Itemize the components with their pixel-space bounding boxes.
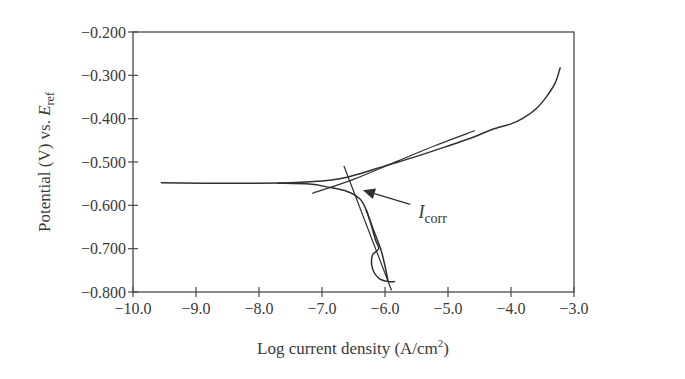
plot-border — [133, 32, 574, 292]
polarization-chart: −0.200−0.300−0.400−0.500−0.600−0.700−0.8… — [0, 0, 685, 379]
y-axis-label: Potential (V) vs. Eref — [35, 92, 57, 232]
x-axis-label: Log current density (A/cm2) — [257, 337, 449, 358]
anodic-tafel-fit-line — [313, 131, 475, 193]
y-axis-ticks: −0.200−0.300−0.400−0.500−0.600−0.700−0.8… — [81, 24, 138, 301]
y-tick-label: −0.800 — [81, 284, 126, 301]
x-tick-label: −7.0 — [307, 300, 336, 317]
plot-frame — [133, 32, 574, 292]
icorr-label: Icorr — [417, 202, 447, 226]
y-tick-label: −0.200 — [81, 24, 126, 41]
x-tick-label: −9.0 — [181, 300, 210, 317]
anodic-branch-line — [161, 68, 560, 183]
cathodic-tafel-fit-line — [344, 166, 391, 290]
y-tick-label: −0.300 — [81, 67, 126, 84]
y-tick-label: −0.600 — [81, 197, 126, 214]
y-tick-label: −0.700 — [81, 240, 126, 257]
x-tick-label: −5.0 — [433, 300, 462, 317]
cathodic-branch-line — [278, 183, 395, 282]
x-tick-label: −6.0 — [370, 300, 399, 317]
arrow-head-icon — [363, 188, 376, 199]
x-tick-label: −10.0 — [114, 300, 151, 317]
y-tick-label: −0.500 — [81, 154, 126, 171]
icorr-arrow-line — [374, 194, 410, 205]
annotations: Icorr — [363, 188, 447, 226]
x-tick-label: −3.0 — [559, 300, 588, 317]
x-tick-label: −8.0 — [244, 300, 273, 317]
data-series — [161, 68, 560, 290]
x-tick-label: −4.0 — [496, 300, 525, 317]
y-tick-label: −0.400 — [81, 110, 126, 127]
cathodic-branch-2-line — [366, 210, 388, 282]
